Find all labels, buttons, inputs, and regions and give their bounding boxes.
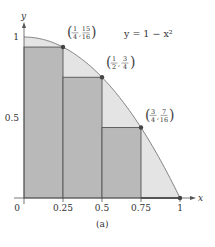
sample-point — [100, 75, 104, 79]
fraction-numerator: 3 — [123, 55, 127, 63]
x-tick-label: 0.75 — [131, 203, 151, 213]
paren: ) — [91, 24, 96, 40]
fraction-numerator: 3 — [151, 108, 155, 116]
x-tick-label: 0.5 — [95, 203, 110, 213]
fraction-denominator: 4 — [73, 33, 77, 41]
y-tick-label: 0.5 — [5, 113, 20, 123]
paren: ( — [145, 107, 150, 123]
fraction-numerator: 1 — [73, 25, 77, 33]
comma: , — [157, 113, 159, 121]
fraction-numerator: 1 — [112, 55, 116, 63]
point-label: (12,34) — [106, 54, 135, 71]
point-label: (34,716) — [145, 107, 174, 124]
riemann-rectangle-2 — [63, 77, 102, 198]
x-axis-label: x — [198, 193, 203, 203]
comma: , — [79, 30, 81, 38]
figure-caption: (a) — [96, 219, 108, 229]
fraction-denominator: 2 — [112, 63, 116, 71]
riemann-rectangle-1 — [24, 47, 63, 198]
paren: ) — [130, 54, 135, 70]
x-axis-arrow-icon — [190, 196, 196, 200]
paren: ) — [169, 107, 174, 123]
sample-point — [61, 45, 65, 49]
fraction-numerator: 7 — [162, 108, 166, 116]
y-axis-arrow-icon — [22, 22, 26, 28]
sample-point — [139, 125, 143, 129]
y-tick-label: 1 — [13, 32, 19, 42]
fraction-denominator: 16 — [82, 33, 90, 41]
paren: ( — [67, 24, 72, 40]
riemann-rectangle-3 — [102, 128, 141, 198]
x-tick-label: 1 — [177, 203, 183, 213]
paren: ( — [106, 54, 111, 70]
sample-point — [178, 196, 182, 200]
riemann-sum-chart: x y 00.250.50.7510.51 (14,1516)(12,34)(3… — [0, 0, 215, 247]
fraction-numerator: 15 — [82, 25, 90, 33]
x-tick-label: 0 — [14, 203, 20, 213]
x-tick-label: 0.25 — [53, 203, 73, 213]
comma: , — [118, 60, 120, 68]
fraction-denominator: 16 — [160, 116, 168, 124]
point-label: (14,1516) — [67, 24, 96, 41]
fraction-denominator: 4 — [123, 63, 127, 71]
curve-equation-label: y = 1 − x² — [123, 28, 173, 39]
y-axis-label: y — [20, 11, 27, 21]
fraction-denominator: 4 — [151, 116, 155, 124]
